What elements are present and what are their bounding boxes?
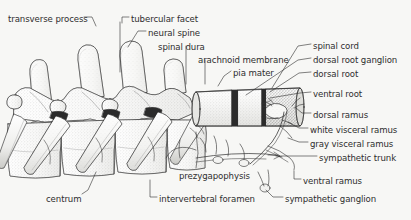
label-ventral-ramus: ventral ramus: [303, 176, 362, 186]
label-sympathetic-trunk: sympathetic trunk: [319, 153, 396, 163]
label-dorsal-ramus: dorsal ramus: [313, 110, 368, 120]
leader-gray-visceral-ramus: [288, 138, 308, 142]
leader-ventral-ramus: [294, 171, 301, 179]
label-pia-mater: pia mater: [233, 68, 274, 78]
label-ventral-root: ventral root: [313, 89, 362, 99]
label-sympathetic-ganglion: sympathetic ganglion: [285, 194, 376, 204]
leader-intervertebral-foramen: [150, 180, 157, 197]
label-centrum: centrum: [46, 194, 81, 204]
label-white-visceral-ramus: white visceral ramus: [310, 125, 397, 135]
label-prezygapophysis: prezygapophysis: [179, 171, 250, 181]
label-tubercular-facet: tubercular facet: [131, 14, 198, 24]
label-spinal-dura: spinal dura: [158, 42, 205, 52]
label-intervertebral-foramen: intervertebral foramen: [159, 194, 255, 204]
anatomical-figure: transverse processtubercular facetneural…: [0, 0, 411, 220]
label-spinal-cord: spinal cord: [313, 41, 359, 51]
leader-tubercular-facet: [122, 17, 129, 23]
label-arachnoid-membrane: arachnoid membrane: [198, 55, 289, 65]
leader-spinal-cord: [272, 44, 311, 88]
label-gray-visceral-ramus: gray visceral ramus: [310, 139, 393, 149]
label-dorsal-root-ganglion: dorsal root ganglion: [313, 55, 397, 65]
label-neural-spine: neural spine: [148, 28, 200, 38]
leader-pia-mater: [218, 71, 231, 86]
label-transverse-process: transverse process: [8, 14, 88, 24]
label-dorsal-root: dorsal root: [313, 69, 358, 79]
